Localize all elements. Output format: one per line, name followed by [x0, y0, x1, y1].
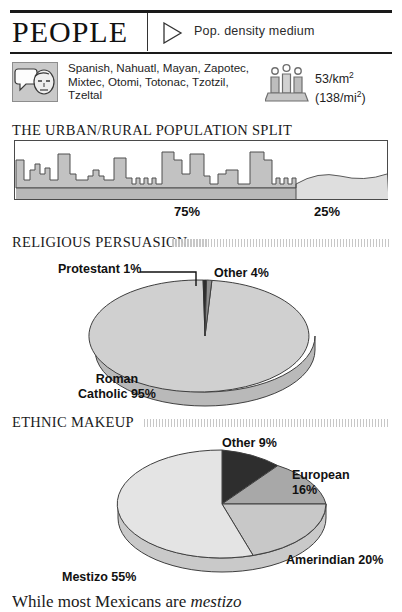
languages-list: Spanish, Nahuatl, Mayan, Zapotec, Mixtec… [68, 61, 263, 102]
urban-rural-labels: 75% 25% [14, 204, 388, 222]
religion-section-hatch [172, 239, 390, 247]
closing-italic-term: mestizo [190, 592, 241, 611]
label-other-religion: Other 4% [214, 266, 269, 281]
people-infographic-page: PEOPLE Pop. density medium Spanish, Nahu… [0, 0, 402, 612]
facts-row: Spanish, Nahuatl, Mayan, Zapotec, Mixtec… [12, 62, 392, 112]
label-mestizo: Mestizo 55% [62, 570, 136, 585]
triangle-right-icon [162, 22, 184, 48]
label-other-ethnic: Other 9% [222, 436, 277, 451]
density-metric: 53/km2 [315, 68, 366, 87]
page-header: PEOPLE Pop. density medium [10, 10, 392, 54]
ethnic-section-hatch [144, 419, 390, 427]
urban-rural-chart [14, 140, 388, 200]
density-imperial: (138/mi2) [315, 87, 366, 106]
urban-percent-label: 75% [174, 204, 200, 219]
header-rule-top [10, 10, 392, 13]
closing-text: While most Mexicans are [12, 592, 190, 611]
pop-density-badge-label: Pop. density medium [194, 24, 315, 38]
page-title: PEOPLE [12, 14, 128, 50]
population-density-values: 53/km2 (138/mi2) [315, 68, 366, 106]
three-people-icon [265, 62, 309, 108]
rural-percent-label: 25% [314, 204, 340, 219]
rolling-hills-icon [296, 174, 388, 199]
header-rule-bottom [10, 52, 392, 54]
urban-rural-section-title: THE URBAN/RURAL POPULATION SPLIT [12, 122, 292, 139]
header-divider [147, 13, 148, 51]
ethnic-section-title: ETHNIC MAKEUP [12, 414, 134, 431]
label-protestant: Protestant 1% [58, 262, 141, 277]
religion-section-title: RELIGIOUS PERSUASION [12, 234, 188, 251]
label-roman-catholic: Roman Catholic 95% [62, 372, 172, 401]
speech-bubble-face-icon [12, 62, 58, 102]
label-amerindian: Amerindian 20% [286, 553, 383, 568]
label-european: European 16% [292, 468, 350, 497]
closing-paragraph: While most Mexicans are mestizo [12, 592, 392, 612]
